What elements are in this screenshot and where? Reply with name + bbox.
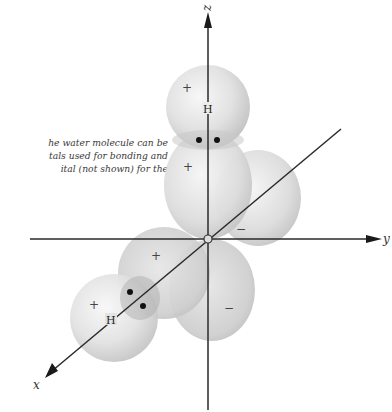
electron-dot	[140, 303, 146, 309]
lower-lobe-sign: −	[224, 301, 234, 315]
oxygen-nucleus	[204, 235, 212, 243]
electron-dot	[214, 137, 220, 143]
top-hydrogen-label: H	[203, 103, 213, 116]
x-axis-arrowhead	[45, 363, 58, 378]
z-axis-label: z	[200, 4, 214, 12]
right-lobe-sign: −	[236, 222, 246, 236]
water-molecule-orbital-diagram: he water molecule can be tals used for b…	[0, 0, 392, 412]
y-axis-arrowhead	[366, 235, 382, 243]
upper-lobe-sign: +	[183, 160, 193, 174]
bottom-h-sign: +	[89, 298, 99, 312]
electron-dot	[127, 289, 133, 295]
bottom-hydrogen-label: H	[106, 314, 116, 327]
top-h-sign: +	[182, 81, 192, 95]
x-axis-label: x	[33, 378, 40, 392]
z-axis-arrowhead	[204, 12, 212, 28]
electron-dot	[196, 137, 202, 143]
front-lobe-sign: +	[151, 249, 161, 263]
y-axis-label: y	[382, 232, 390, 246]
